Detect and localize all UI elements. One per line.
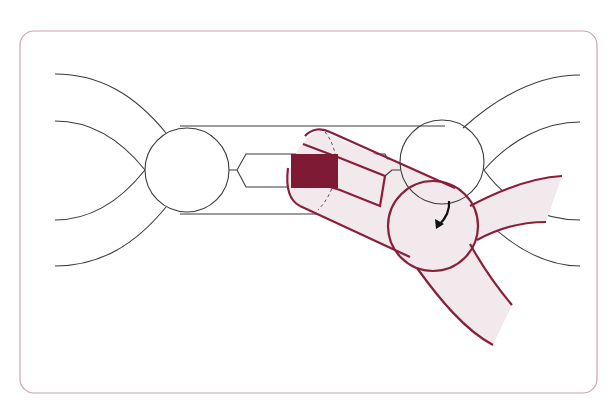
highlight-block [291,154,338,188]
diagram-canvas [0,0,616,408]
left-node [145,128,229,212]
diagram-svg [0,0,616,408]
